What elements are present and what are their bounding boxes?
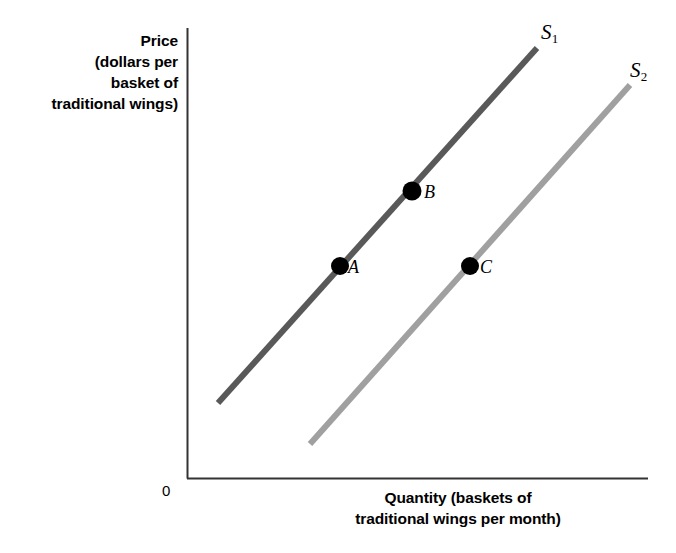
supply-curve-figure: Price (dollars per basket of traditional… [0, 0, 676, 553]
supply-curve-s1 [218, 48, 537, 403]
data-point-b [403, 182, 422, 201]
curve-label-s1: S1 [541, 20, 558, 45]
point-label-b: B [424, 182, 435, 203]
data-point-c [461, 257, 479, 275]
curve-label-s1-text: S [541, 20, 552, 44]
y-axis-label-line-4: traditional wings) [0, 93, 178, 114]
y-axis-label-line-3: basket of [0, 72, 178, 93]
y-axis-label-line-1: Price [0, 30, 178, 51]
origin-label: 0 [162, 482, 170, 499]
y-axis-label-line-2: (dollars per [0, 51, 178, 72]
curve-label-s1-subscript: 1 [552, 31, 559, 46]
y-axis-label: Price (dollars per basket of traditional… [0, 30, 178, 114]
point-label-c: C [480, 257, 492, 278]
x-axis-label: Quantity (baskets of traditional wings p… [240, 487, 676, 529]
curve-label-s2-text: S [630, 58, 641, 82]
x-axis-label-line-2: traditional wings per month) [240, 508, 676, 529]
curve-label-s2-subscript: 2 [641, 69, 648, 84]
curve-label-s2: S2 [630, 58, 647, 83]
point-label-a: A [348, 257, 359, 278]
x-axis-label-line-1: Quantity (baskets of [240, 487, 676, 508]
data-point-a [331, 257, 349, 275]
